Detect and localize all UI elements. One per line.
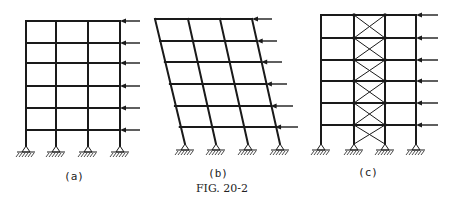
pin-support-icon [175, 144, 194, 155]
lateral-load-arrow-icon [266, 82, 287, 87]
lateral-load-arrow-icon [252, 17, 272, 22]
pin-support-icon [270, 144, 289, 155]
pin-support-icon [16, 146, 35, 157]
lateral-load-arrow-icon [416, 13, 438, 18]
lateral-load-arrow-icon [271, 104, 293, 109]
lateral-load-arrow-icon [257, 39, 277, 44]
frame-a-rigid [16, 19, 140, 158]
frame-b-deflected [155, 17, 298, 156]
lateral-load-arrow-icon [120, 128, 140, 133]
pin-support-icon [110, 146, 129, 157]
figure-caption: FIG. 20-2 [196, 182, 248, 195]
frame-c-braced [311, 13, 438, 156]
lateral-load-arrow-icon [120, 106, 140, 111]
lateral-load-arrow-icon [416, 123, 438, 128]
pin-support-icon [311, 144, 330, 155]
lateral-load-arrow-icon [120, 19, 140, 24]
pin-support-icon [344, 144, 363, 155]
lateral-load-arrow-icon [120, 84, 140, 89]
column [188, 19, 216, 144]
column [220, 19, 248, 144]
lateral-load-arrow-icon [416, 58, 438, 63]
structural-frames-diagram: (a) (b) (c) FIG. 20-2 [0, 0, 453, 201]
panel-label-c: (c) [358, 166, 378, 179]
lateral-load-arrow-icon [261, 60, 282, 65]
column [252, 19, 280, 144]
panel-label-a: (a) [64, 170, 84, 183]
lateral-load-arrow-icon [120, 61, 140, 66]
lateral-load-arrow-icon [416, 101, 438, 106]
lateral-load-arrow-icon [275, 125, 298, 130]
panel-label-b: (b) [208, 167, 228, 180]
pin-support-icon [46, 146, 65, 157]
pin-support-icon [206, 144, 225, 155]
lateral-load-arrow-icon [120, 41, 140, 46]
pin-support-icon [375, 144, 394, 155]
column [155, 19, 185, 144]
pin-support-icon [406, 144, 425, 155]
pin-support-icon [78, 146, 97, 157]
pin-support-icon [238, 144, 257, 155]
lateral-load-arrow-icon [416, 79, 438, 84]
lateral-load-arrow-icon [416, 36, 438, 41]
